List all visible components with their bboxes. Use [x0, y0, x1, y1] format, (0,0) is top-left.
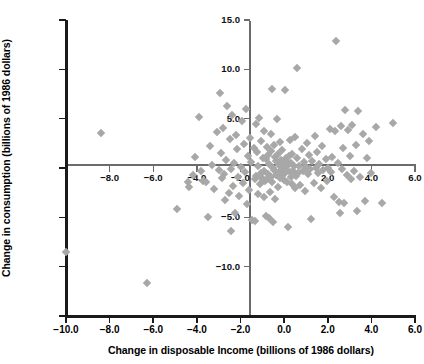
scatter-point — [313, 148, 321, 156]
scatter-point — [235, 191, 243, 199]
scatter-point — [227, 227, 235, 235]
scatter-point — [345, 151, 353, 159]
outer-x-tick-label: 6.0 — [390, 324, 424, 335]
scatter-point — [282, 166, 290, 174]
scatter-point — [260, 126, 268, 134]
scatter-point — [334, 197, 342, 205]
scatter-point — [266, 130, 274, 138]
scatter-point — [277, 165, 285, 173]
inner-y-axis-line — [249, 21, 251, 315]
inner-y-tick-label: −10.0 — [196, 261, 240, 272]
scatter-point — [267, 147, 275, 155]
scatter-point — [288, 180, 296, 188]
scatter-point — [252, 119, 260, 127]
scatter-point — [185, 182, 193, 190]
inner-x-tick-label: 4.0 — [348, 172, 394, 183]
scatter-point — [363, 153, 371, 161]
scatter-point — [263, 175, 271, 183]
scatter-point — [225, 135, 233, 143]
scatter-point — [232, 131, 240, 139]
scatter-point — [264, 151, 272, 159]
scatter-point — [268, 85, 276, 93]
scatter-point — [276, 174, 284, 182]
scatter-point — [288, 149, 296, 157]
scatter-point — [341, 106, 349, 114]
outer-x-tick-label: −6.0 — [128, 324, 178, 335]
scatter-point — [258, 154, 266, 162]
scatter-point — [310, 132, 318, 140]
scatter-point — [271, 153, 279, 161]
scatter-point — [274, 182, 282, 190]
scatter-point — [219, 123, 227, 131]
scatter-point — [224, 188, 232, 196]
scatter-point — [190, 153, 198, 161]
scatter-point — [221, 195, 229, 203]
scatter-point — [265, 214, 273, 222]
inner-y-tick-mark — [244, 266, 250, 267]
outer-x-tick-label: −8.0 — [85, 324, 135, 335]
outer-x-tick-mark — [196, 316, 198, 323]
scatter-point — [305, 150, 313, 158]
scatter-point — [142, 279, 150, 287]
scatter-point — [365, 137, 373, 145]
scatter-point — [321, 154, 329, 162]
scatter-point — [212, 128, 220, 136]
scatter-point — [269, 141, 277, 149]
scatter-point — [296, 181, 304, 189]
inner-y-tick-mark — [244, 19, 250, 20]
inner-y-tick-mark — [244, 118, 250, 119]
scatter-point — [251, 217, 259, 225]
x-axis-title: Change in disposable Income (billions of… — [66, 344, 416, 356]
scatter-point — [253, 148, 261, 156]
scatter-point — [270, 166, 278, 174]
scatter-point — [344, 125, 352, 133]
scatter-point — [332, 36, 340, 44]
outer-y-tick-mark — [59, 118, 66, 120]
scatter-point — [272, 171, 280, 179]
scatter-point — [294, 169, 302, 177]
scatter-point — [280, 86, 288, 94]
scatter-point — [326, 124, 334, 132]
outer-x-tick-mark — [65, 316, 67, 323]
inner-x-tick-label: 6.0 — [392, 172, 424, 183]
outer-x-tick-mark — [283, 316, 285, 323]
scatter-point — [330, 192, 338, 200]
scatter-point — [206, 142, 214, 150]
inner-x-tick-label: −8.0 — [87, 172, 133, 183]
inner-x-axis-line — [68, 164, 416, 166]
scatter-point — [282, 153, 290, 161]
inner-x-tick-label: −4.0 — [174, 172, 220, 183]
scatter-point — [284, 223, 292, 231]
scatter-point — [291, 133, 299, 141]
scatter-point — [267, 173, 275, 181]
y-axis-title: Change in consumption (billions of 1986 … — [0, 0, 18, 340]
scatter-point — [378, 198, 386, 206]
scatter-point — [278, 171, 286, 179]
scatter-point — [286, 173, 294, 181]
scatter-point — [340, 199, 348, 207]
scatter-point — [216, 89, 224, 97]
scatter-point — [271, 194, 279, 202]
inner-y-tick-mark — [244, 69, 250, 70]
scatter-point — [285, 151, 293, 159]
inner-y-tick-label: 10.0 — [196, 63, 240, 74]
inner-x-tick-label: 2.0 — [305, 172, 351, 183]
scatter-point — [289, 167, 297, 175]
scatter-point — [339, 144, 347, 152]
outer-x-tick-mark — [327, 316, 329, 323]
scatter-point — [328, 152, 336, 160]
scatter-point — [283, 178, 291, 186]
scatter-point — [261, 155, 269, 163]
scatter-point — [389, 118, 397, 126]
inner-y-tick-label: 15.0 — [196, 14, 240, 25]
outer-y-tick-mark — [59, 167, 66, 169]
outer-x-tick-label: −10.0 — [41, 324, 91, 335]
outer-x-tick-mark — [240, 316, 242, 323]
scatter-point — [293, 64, 301, 72]
scatter-point — [318, 142, 326, 150]
scatter-point — [260, 193, 268, 201]
scatter-point — [173, 205, 181, 213]
outer-x-tick-mark — [371, 316, 373, 323]
scatter-point — [268, 178, 276, 186]
scatter-point — [276, 138, 284, 146]
